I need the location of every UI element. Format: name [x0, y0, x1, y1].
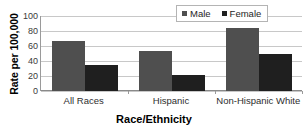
y-axis-tick-label: 80: [12, 27, 38, 36]
bars: [215, 16, 302, 91]
y-axis-tick-label: 100: [12, 12, 38, 21]
legend-item: Female: [222, 8, 262, 19]
x-axis-category-label: Hispanic: [127, 95, 214, 106]
bars: [128, 16, 215, 91]
legend-label: Male: [190, 8, 211, 19]
bar-female: [172, 75, 205, 91]
bar-female: [259, 54, 292, 92]
x-axis-category-label: Non-Hispanic White: [215, 95, 302, 106]
x-axis-tick-mark: [215, 91, 216, 94]
bar-chart: Rate per 100,000 020406080100 All RacesH…: [0, 0, 308, 136]
bar-group: [128, 16, 215, 91]
y-axis-tick-label: 20: [12, 72, 38, 81]
legend-item: Male: [182, 8, 211, 19]
y-axis-tick-label: 0: [12, 87, 38, 96]
x-axis-tick-mark: [128, 91, 129, 94]
bar-group: [41, 16, 128, 91]
bar-groups: [41, 16, 302, 91]
chart-legend: MaleFemale: [176, 5, 268, 22]
legend-swatch-icon: [182, 11, 187, 16]
x-axis-category-label: All Races: [40, 95, 127, 106]
bar-group: [215, 16, 302, 91]
legend-swatch-icon: [222, 11, 227, 16]
bars: [41, 16, 128, 91]
bar-male: [139, 51, 172, 91]
bar-male: [226, 28, 259, 91]
x-axis-tick-mark: [302, 91, 303, 94]
y-axis-tick-labels: 020406080100: [12, 11, 38, 95]
bar-female: [85, 65, 118, 91]
legend-label: Female: [230, 8, 262, 19]
y-axis-tick-label: 40: [12, 57, 38, 66]
gridline: [41, 91, 302, 92]
y-axis-tick-label: 60: [12, 42, 38, 51]
plot-area: [40, 16, 302, 91]
bar-male: [52, 41, 85, 91]
x-axis-title: Race/Ethnicity: [0, 113, 308, 125]
x-axis-tick-labels: All RacesHispanicNon-Hispanic White: [40, 95, 302, 106]
